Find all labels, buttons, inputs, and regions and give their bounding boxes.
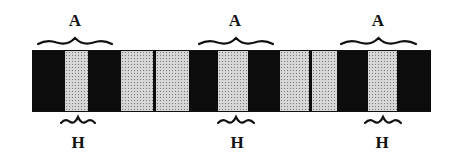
- curly-brace-icon: [199, 38, 273, 44]
- curly-brace-icon: [38, 38, 112, 44]
- h-zone-label: H: [230, 134, 243, 151]
- h-zone-label: H: [375, 134, 388, 151]
- curly-brace-icon: [218, 117, 254, 123]
- curly-brace-icon: [365, 117, 401, 123]
- a-band-label: A: [372, 12, 384, 29]
- a-band-label: A: [229, 12, 241, 29]
- a-band-label: A: [69, 12, 81, 29]
- h-zone-label: H: [71, 134, 84, 151]
- curly-brace-icon: [61, 117, 95, 123]
- curly-brace-icon: [341, 38, 416, 44]
